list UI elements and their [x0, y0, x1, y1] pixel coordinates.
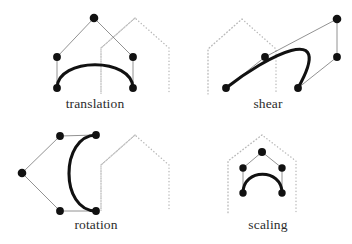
transformations-figure: translationshearrotationscaling: [0, 0, 352, 244]
panel-label-shear: shear: [253, 96, 283, 111]
scaling-apex-point[interactable]: [258, 148, 266, 156]
rotation-control-point-2[interactable]: [56, 207, 64, 215]
scaling-end-anchor[interactable]: [278, 189, 285, 196]
panel-label-rotation: rotation: [74, 217, 117, 232]
shear-start-anchor[interactable]: [222, 84, 230, 92]
scaling-control-point-1[interactable]: [239, 164, 246, 171]
rotation-apex-point[interactable]: [18, 169, 27, 178]
translation-start-anchor[interactable]: [53, 84, 61, 92]
scaling-control-point-2[interactable]: [278, 164, 285, 171]
translation-control-point-1[interactable]: [53, 53, 61, 61]
translation-end-anchor[interactable]: [129, 84, 137, 92]
rotation-end-anchor[interactable]: [92, 207, 100, 215]
rotation-start-anchor[interactable]: [92, 131, 100, 139]
shear-control-point-2[interactable]: [333, 53, 341, 61]
shear-end-anchor[interactable]: [294, 84, 302, 92]
figure-root: translationshearrotationscaling: [0, 0, 352, 244]
shear-apex-point[interactable]: [333, 15, 342, 24]
translation-apex-point[interactable]: [90, 14, 99, 23]
panel-label-scaling: scaling: [248, 217, 287, 232]
figure-background: [0, 0, 352, 244]
shear-control-point-1[interactable]: [261, 53, 269, 61]
rotation-control-point-1[interactable]: [56, 132, 64, 140]
panel-label-translation: translation: [66, 96, 125, 111]
translation-control-point-2[interactable]: [129, 53, 137, 61]
scaling-start-anchor[interactable]: [239, 189, 246, 196]
